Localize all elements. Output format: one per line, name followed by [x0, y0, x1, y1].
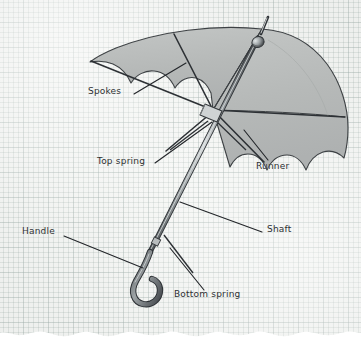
bottom-spring-arm [164, 235, 193, 273]
label-bottom-spring: Bottom spring [174, 289, 241, 299]
label-runner: Runner [256, 161, 289, 171]
bottom-spring-leader-line [170, 248, 204, 290]
diagram-page: Spokes Top spring Runner Shaft Handle Bo… [0, 0, 361, 344]
handle-leader-line [64, 236, 143, 268]
shaft-leader-line [180, 202, 262, 232]
label-spokes: Spokes [88, 86, 121, 96]
label-shaft: Shaft [267, 224, 291, 234]
umbrella-canopy [90, 27, 348, 170]
label-handle: Handle [22, 226, 55, 236]
label-top-spring: Top spring [97, 156, 145, 166]
umbrella-handle-hook [133, 252, 160, 304]
umbrella-bottom-spring [151, 235, 193, 273]
